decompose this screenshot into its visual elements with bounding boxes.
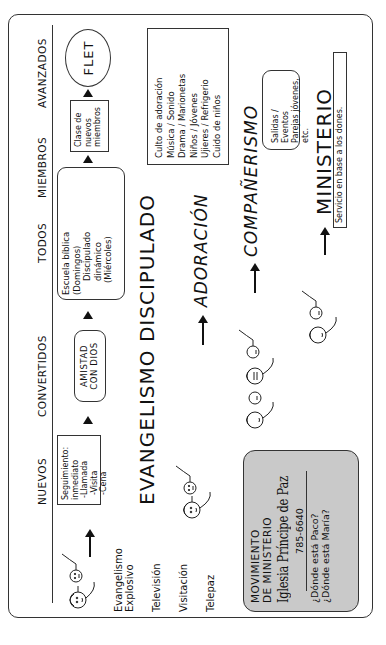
- escuela-box: Escuela bíblica (Domingos) Discipulado d…: [57, 167, 125, 300]
- church-question-maria: ¿Dónde está María?: [320, 459, 331, 603]
- escuela-line: dinámico: [93, 172, 104, 295]
- people-pair-icon: [300, 285, 342, 345]
- companerismo-box: Salidas / Eventos Parejas jóvenes, etc.: [262, 70, 300, 150]
- seguimiento-line: inmediato: [71, 440, 81, 500]
- escuela-line: (Miércoles): [103, 172, 114, 295]
- arrowhead-icon: [83, 416, 93, 424]
- adoracion-line: Culto de adoración: [154, 35, 166, 158]
- heading-underline: [52, 25, 53, 603]
- arrowhead-icon: [83, 155, 93, 163]
- adoracion-line: Cuido de niños: [212, 35, 224, 158]
- people-pair-icon: [60, 530, 98, 610]
- adoracion-line: Niños / Jóvenes: [189, 35, 201, 158]
- church-name: Iglesia Príncipe de Paz: [275, 485, 292, 603]
- seguimiento-line: -Cena: [99, 440, 109, 500]
- church-title-line2: DE MINISTERIO: [262, 459, 274, 603]
- escuela-line: (Domingos): [72, 172, 83, 295]
- clase-line: miembros: [93, 105, 103, 147]
- escuela-line: Discipulado: [82, 172, 93, 295]
- ministerio-box: Servicio en base a los dones.: [333, 52, 347, 228]
- seguimiento-line: Seguimiento:: [61, 440, 71, 500]
- church-question-paco: ¿Dónde está Paco?: [309, 459, 320, 603]
- heading-avanzados: AVANZADOS: [36, 38, 48, 108]
- companerismo-line: Salidas / Eventos: [271, 77, 291, 143]
- heading-miembros: MIEMBROS: [36, 137, 48, 198]
- seguimiento-line: -Visita: [90, 440, 100, 500]
- heading-nuevos: NUEVOS: [36, 458, 48, 505]
- pillar-adoracion: ADORACIÓN: [191, 193, 211, 307]
- outreach-television: Televisión: [151, 563, 162, 612]
- church-title-line1: MOVIMIENTO: [250, 459, 262, 603]
- outreach-explosivo: Explosivo: [124, 564, 135, 612]
- amistad-box: AMISTAD CON DIOS: [74, 330, 106, 402]
- pillar-evangelismo-discipulado: EVANGELISMO DISCIPULADO: [135, 194, 159, 505]
- church-info-box: MOVIMIENTO DE MINISTERIO Iglesia Príncip…: [243, 450, 359, 612]
- pillar-discipulado: DISCIPULADO: [135, 194, 159, 342]
- heading-convertidos: CONVERTIDOS: [36, 335, 48, 417]
- adoracion-box: Culto de adoración Música / Sonido Drama…: [147, 28, 229, 165]
- adoracion-line: Ujieres / Refrigerio: [200, 35, 212, 158]
- outreach-visitacion: Visitación: [178, 564, 189, 612]
- seguimiento-box: Seguimiento: inmediato -Llamada -Visita …: [57, 435, 101, 505]
- outreach-evangelismo: Evangelismo: [113, 548, 124, 612]
- seguimiento-line: -Llamada: [80, 440, 90, 500]
- adoracion-line: Música / Sonido: [166, 35, 178, 158]
- clase-box: Clase de nuevos miembros: [70, 100, 109, 152]
- arrow-icon: [202, 321, 204, 345]
- clase-line: Clase de: [74, 105, 84, 147]
- arrowhead-icon: [83, 311, 93, 319]
- heading-todos: TODOS: [36, 223, 48, 263]
- pillar-companerismo: COMPAÑERISMO: [241, 105, 261, 257]
- pillar-evangelismo: EVANGELISMO: [135, 349, 159, 505]
- clase-line: nuevos: [84, 105, 94, 147]
- amistad-line: CON DIOS: [90, 335, 100, 397]
- people-group-icon: [235, 310, 283, 430]
- people-pair-icon: [172, 460, 214, 520]
- arrow-icon: [324, 233, 326, 255]
- adoracion-line: Drama / Marionetas: [177, 35, 189, 158]
- church-phone: 785-6640: [292, 471, 307, 591]
- outreach-telepaz: Telepaz: [205, 575, 216, 612]
- arrow-icon: [89, 535, 91, 557]
- flet-oval: FLET: [65, 29, 111, 87]
- poster-ministry-movement: NUEVOS CONVERTIDOS TODOS MIEMBROS AVANZA…: [0, 0, 386, 645]
- companerismo-line: Parejas jóvenes, etc.: [291, 77, 311, 143]
- escuela-line: Escuela bíblica: [61, 172, 72, 295]
- arrowhead-icon: [83, 89, 93, 97]
- arrow-icon: [254, 269, 256, 293]
